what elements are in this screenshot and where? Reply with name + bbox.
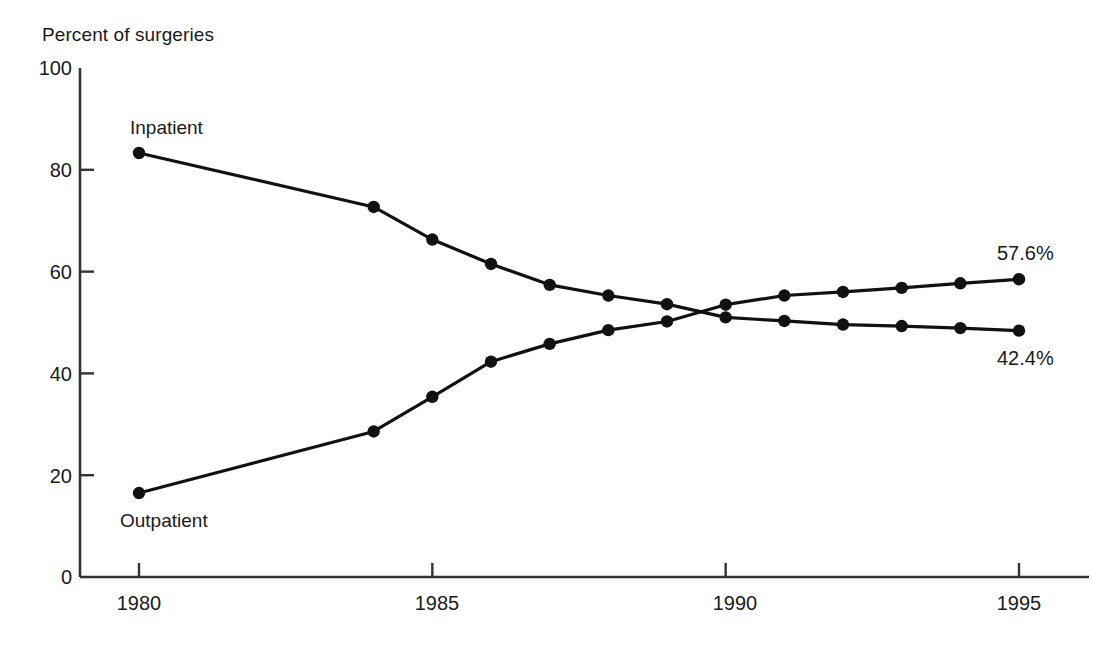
data-point-outpatient-1980 bbox=[133, 487, 145, 499]
data-point-inpatient-1985 bbox=[426, 233, 438, 245]
data-point-outpatient-1995 bbox=[1013, 273, 1025, 285]
data-point-outpatient-1992 bbox=[837, 286, 849, 298]
data-point-inpatient-1986 bbox=[485, 258, 497, 270]
data-point-inpatient-1990 bbox=[719, 311, 731, 323]
data-point-inpatient-1987 bbox=[543, 279, 555, 291]
y-tick-marks bbox=[80, 170, 94, 475]
data-point-inpatient-1984 bbox=[367, 201, 379, 213]
data-point-outpatient-1988 bbox=[602, 324, 614, 336]
series-markers bbox=[133, 147, 1025, 499]
series-lines bbox=[139, 153, 1019, 493]
data-point-outpatient-1991 bbox=[778, 289, 790, 301]
data-point-inpatient-1991 bbox=[778, 315, 790, 327]
data-point-inpatient-1995 bbox=[1013, 324, 1025, 336]
axes bbox=[80, 68, 1089, 577]
x-tick-marks bbox=[139, 563, 1019, 577]
data-point-outpatient-1994 bbox=[954, 277, 966, 289]
data-point-outpatient-1987 bbox=[543, 338, 555, 350]
chart-container: Percent of surgeries 100 80 60 40 20 0 1… bbox=[0, 0, 1093, 651]
series-line-inpatient bbox=[139, 153, 1019, 331]
data-point-inpatient-1980 bbox=[133, 147, 145, 159]
series-line-outpatient bbox=[139, 279, 1019, 493]
data-point-inpatient-1989 bbox=[661, 298, 673, 310]
data-point-inpatient-1992 bbox=[837, 318, 849, 330]
data-point-outpatient-1990 bbox=[719, 298, 731, 310]
data-point-inpatient-1988 bbox=[602, 289, 614, 301]
data-point-outpatient-1993 bbox=[895, 282, 907, 294]
plot-area bbox=[0, 0, 1093, 651]
data-point-outpatient-1986 bbox=[485, 355, 497, 367]
data-point-inpatient-1993 bbox=[895, 320, 907, 332]
data-point-outpatient-1989 bbox=[661, 315, 673, 327]
data-point-outpatient-1984 bbox=[367, 425, 379, 437]
data-point-inpatient-1994 bbox=[954, 322, 966, 334]
data-point-outpatient-1985 bbox=[426, 391, 438, 403]
